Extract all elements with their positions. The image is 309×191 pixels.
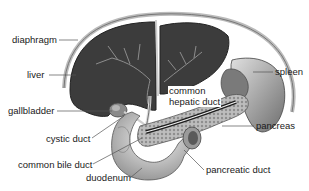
- label-duodenum: duodenum: [86, 173, 131, 183]
- label-common-bile-duct: common bile duct: [18, 160, 92, 170]
- label-pancreatic-duct: pancreatic duct: [206, 165, 270, 175]
- label-gallbladder: gallbladder: [8, 106, 54, 116]
- anatomy-diagram: diaphragm liver gallbladder cystic duct …: [0, 0, 309, 191]
- gallbladder-shape: [109, 103, 127, 117]
- label-cystic-duct: cystic duct: [46, 134, 90, 144]
- label-common-hepatic-duct-line2: hepatic duct: [168, 97, 221, 107]
- label-pancreas: pancreas: [256, 121, 295, 131]
- label-common-hepatic-duct-line1: common: [168, 86, 206, 96]
- label-diaphragm: diaphragm: [12, 35, 57, 45]
- label-liver: liver: [27, 70, 44, 80]
- label-spleen: spleen: [275, 67, 303, 77]
